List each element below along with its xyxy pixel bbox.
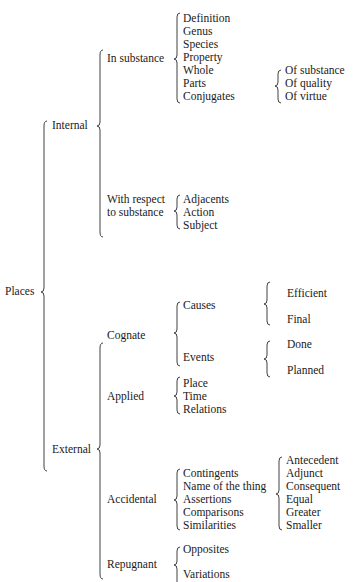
brace-accidental-sub — [276, 457, 282, 530]
node-with-respect-line2: to substance — [107, 206, 164, 219]
leaf-equal: Equal — [286, 493, 313, 506]
node-causes: Causes — [183, 299, 216, 312]
leaf-time: Time — [183, 390, 207, 403]
leaf-similarities: Similarities — [183, 519, 236, 532]
leaf-opposites: Opposites — [183, 543, 229, 556]
node-with-respect-line1: With respect — [107, 193, 165, 206]
brace-places — [41, 121, 47, 471]
leaf-definition: Definition — [183, 12, 230, 25]
leaf-species: Species — [183, 38, 218, 51]
leaf-property: Property — [183, 51, 223, 64]
brace-whole-parts — [275, 70, 281, 103]
brace-with-respect — [174, 195, 180, 229]
brace-applied — [174, 377, 180, 414]
leaf-place: Place — [183, 377, 208, 390]
leaf-planned: Planned — [287, 364, 324, 377]
leaf-adjacents: Adjacents — [183, 193, 229, 206]
leaf-of-virtue: Of virtue — [285, 90, 327, 103]
leaf-parts: Parts — [183, 77, 206, 90]
leaf-whole: Whole — [183, 64, 214, 77]
brace-repugnant — [174, 547, 180, 582]
leaf-antecedent: Antecedent — [286, 454, 338, 467]
leaf-adjunct: Adjunct — [286, 467, 323, 480]
node-events: Events — [183, 351, 214, 364]
leaf-of-substance: Of substance — [285, 64, 345, 77]
leaf-name-of-the-thing: Name of the thing — [183, 480, 266, 493]
node-internal: Internal — [52, 119, 88, 132]
leaf-efficient: Efficient — [287, 287, 327, 300]
leaf-of-quality: Of quality — [285, 77, 332, 90]
node-in-substance: In substance — [107, 52, 164, 65]
leaf-conjugates: Conjugates — [183, 90, 235, 103]
leaf-genus: Genus — [183, 25, 212, 38]
brace-in-substance — [174, 13, 180, 103]
brace-cognate — [174, 302, 180, 366]
leaf-contingents: Contingents — [183, 467, 239, 480]
node-cognate: Cognate — [107, 329, 145, 342]
node-places: Places — [5, 285, 34, 298]
leaf-final: Final — [287, 313, 311, 326]
leaf-smaller: Smaller — [286, 519, 322, 532]
leaf-variations: Variations — [183, 568, 230, 581]
leaf-action: Action — [183, 206, 214, 219]
brace-internal — [97, 50, 103, 237]
brace-causes — [264, 282, 270, 325]
leaf-comparisons: Comparisons — [183, 506, 244, 519]
leaf-relations: Relations — [183, 403, 226, 416]
node-repugnant: Repugnant — [107, 558, 157, 571]
leaf-assertions: Assertions — [183, 493, 232, 506]
leaf-subject: Subject — [183, 219, 218, 232]
node-accidental: Accidental — [107, 493, 157, 506]
brace-external — [97, 343, 103, 579]
leaf-consequent: Consequent — [286, 480, 340, 493]
node-external: External — [52, 443, 91, 456]
leaf-greater: Greater — [286, 506, 320, 519]
brace-accidental — [174, 469, 180, 530]
leaf-done: Done — [287, 338, 312, 351]
node-applied: Applied — [107, 390, 144, 403]
brace-events — [264, 341, 270, 377]
